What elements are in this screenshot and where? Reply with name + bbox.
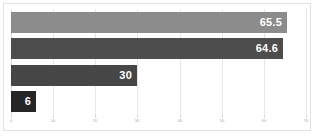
gridline	[306, 9, 307, 115]
x-axis: 010203040506070	[11, 115, 306, 131]
x-axis-tick-label: 10	[51, 119, 55, 123]
bar: 30	[11, 65, 137, 86]
x-axis-tick-label: 30	[135, 119, 139, 123]
bars-layer: 65.564.6306	[11, 9, 306, 115]
bar: 6	[11, 91, 36, 112]
x-axis-tick-label: 0	[10, 119, 12, 123]
x-axis-tick-label: 60	[262, 119, 266, 123]
bar-value-label: 30	[119, 70, 137, 81]
bar-value-label: 6	[25, 96, 36, 107]
bar: 64.6	[11, 38, 283, 59]
x-axis-tick-label: 40	[178, 119, 182, 123]
bar-value-label: 64.6	[256, 43, 283, 54]
bar-row: 6	[11, 89, 306, 116]
plot-area: 65.564.6306	[11, 9, 306, 115]
bar-row: 65.5	[11, 9, 306, 36]
bar: 65.5	[11, 12, 287, 33]
bar-row: 64.6	[11, 36, 306, 63]
bar-value-label: 65.5	[260, 17, 287, 28]
bar-row: 30	[11, 62, 306, 89]
x-axis-tick-label: 70	[304, 119, 308, 123]
x-axis-tick-label: 50	[220, 119, 224, 123]
x-axis-tick-label: 20	[93, 119, 97, 123]
bar-chart: 65.564.6306 010203040506070	[0, 0, 314, 137]
